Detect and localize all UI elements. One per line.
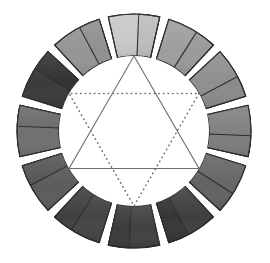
inner-hub-disc xyxy=(59,56,209,206)
color-wheel-canvas xyxy=(0,0,270,263)
segment-bottom xyxy=(108,204,159,248)
segment-left xyxy=(17,105,61,156)
segment-right xyxy=(207,105,251,156)
segment-top xyxy=(108,14,159,58)
color-wheel-figure xyxy=(0,0,270,263)
